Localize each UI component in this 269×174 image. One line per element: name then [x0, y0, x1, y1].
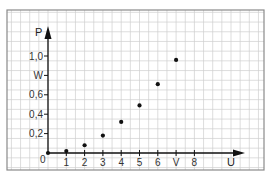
data-point [156, 82, 160, 86]
y-tick-label: 1,0 [29, 51, 43, 62]
grid [7, 10, 264, 170]
x-tick-label: 8 [192, 157, 198, 168]
data-point [137, 103, 141, 107]
chart-svg: 123456V8 0,20,40,6W1,0 0 U P [0, 0, 269, 174]
data-point [83, 143, 87, 147]
y-tick-label: 0,2 [29, 128, 43, 139]
x-tick-label: V [173, 157, 180, 168]
y-axis-label: P [35, 26, 42, 38]
data-point [174, 58, 178, 62]
axes [45, 26, 246, 157]
data-point [64, 149, 68, 153]
y-tick-label: 0,4 [29, 109, 43, 120]
data-point [101, 133, 105, 137]
origin-label: 0 [40, 154, 46, 165]
x-tick-label: 4 [118, 157, 124, 168]
x-tick-label: 6 [155, 157, 161, 168]
x-tick-label: 1 [64, 157, 70, 168]
x-tick-label: 2 [82, 157, 88, 168]
data-point [46, 151, 50, 155]
data-point [119, 120, 123, 124]
y-tick-label: 0,6 [29, 89, 43, 100]
x-tick-label: 5 [137, 157, 143, 168]
y-axis-arrow-icon [45, 26, 52, 39]
x-tick-label: 3 [100, 157, 106, 168]
x-axis-label: U [227, 156, 235, 168]
y-tick-label: W [34, 70, 44, 81]
